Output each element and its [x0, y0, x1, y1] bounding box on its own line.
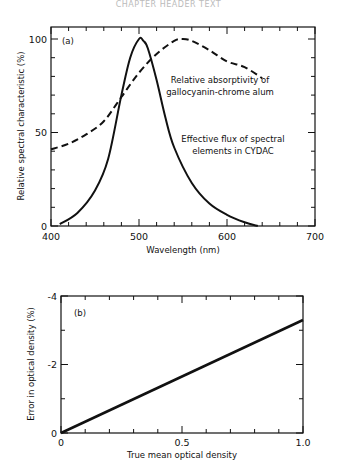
panel-label-a: (a): [62, 36, 74, 46]
y-tick-label: 0: [51, 428, 57, 439]
x-axis-label-a: Wavelength (nm): [146, 245, 219, 255]
x-axis-label-b: True mean optical density: [126, 450, 237, 460]
x-tick-label: 700: [306, 231, 324, 242]
x-tick-label: 0: [58, 437, 64, 448]
error-line: [61, 320, 303, 433]
annotation-absorptivity-2: gallocyanin-chrome alum: [166, 87, 274, 97]
x-tick-label: 0.5: [174, 437, 189, 448]
flux-curve: [60, 38, 258, 226]
x-tick-label: 600: [218, 231, 236, 242]
annotation-flux-2: elements in CYDAC: [192, 146, 274, 156]
y-axis-label-a: Relative spectral characteristic (%): [16, 51, 26, 200]
annotation-absorptivity-1: Relative absorptivity of: [171, 75, 270, 85]
chart-b: 00.51.00-2-4 (b) True mean optical densi…: [26, 291, 311, 461]
chart-a: 400500600700050100 (a) Relative absorpti…: [16, 27, 324, 255]
y-axis-label-b: Error in optical density (%): [26, 307, 36, 421]
x-tick-label: 1.0: [295, 437, 310, 448]
figure: 400500600700050100 (a) Relative absorpti…: [0, 0, 337, 472]
x-tick-label: 400: [42, 231, 60, 242]
y-tick-label: -2: [48, 359, 57, 370]
y-tick-label: 50: [35, 127, 47, 138]
y-tick-label: 100: [29, 34, 47, 45]
y-tick-label: 0: [41, 221, 47, 232]
y-tick-label: -4: [48, 291, 57, 302]
annotation-flux-1: Effective flux of spectral: [181, 134, 284, 144]
panel-label-b: (b): [74, 308, 86, 318]
chart-b-frame: [61, 296, 303, 433]
x-tick-label: 500: [130, 231, 148, 242]
chart-b-ticks: 00.51.00-2-4: [48, 291, 311, 449]
